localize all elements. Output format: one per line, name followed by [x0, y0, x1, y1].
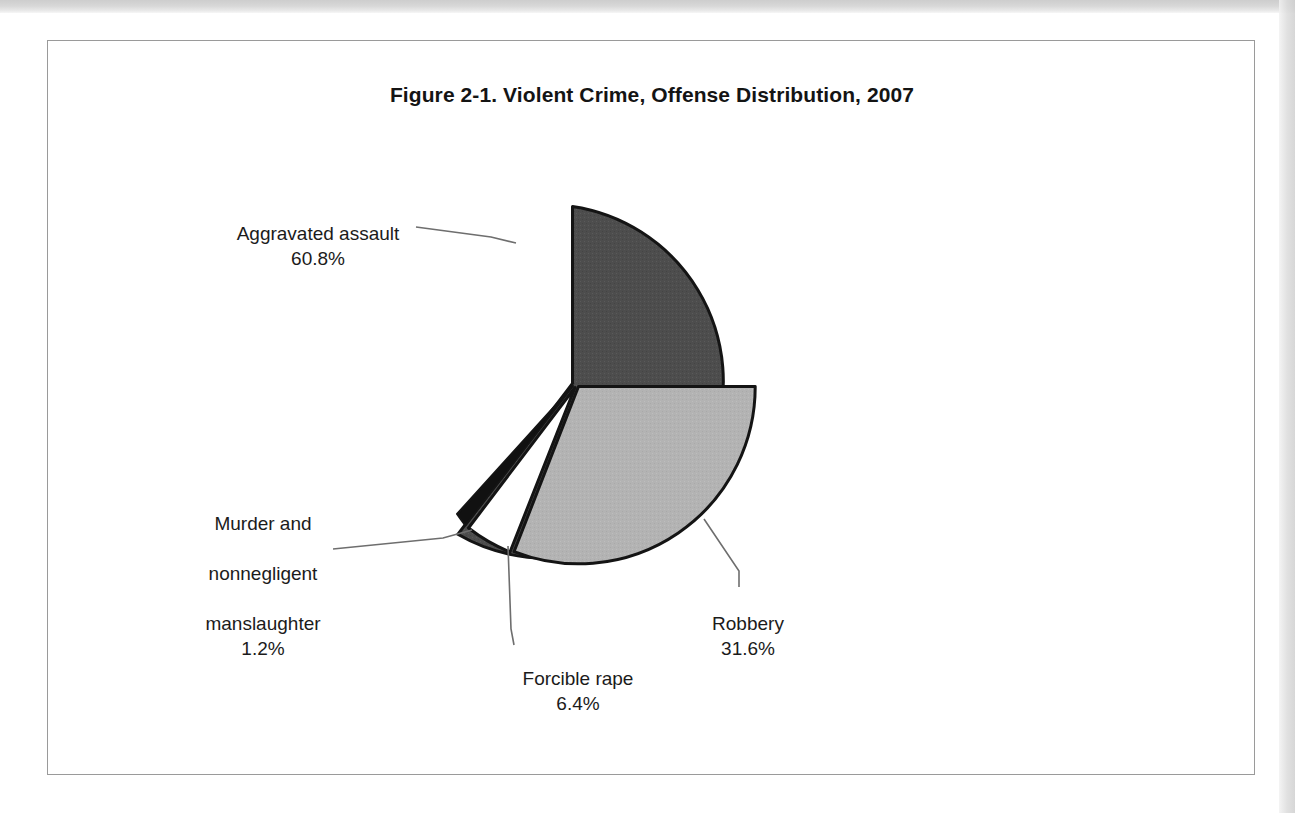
pie-label-robbery-value: 31.6% — [648, 636, 848, 661]
scan-artifact-top-band — [0, 0, 1295, 13]
pie-label-aggravated-assault-value: 60.8% — [203, 246, 433, 271]
pie-label-murder-line3: manslaughter — [205, 613, 320, 634]
pie-label-murder-line1: Murder and — [214, 513, 311, 534]
scan-artifact-right-band — [1279, 0, 1295, 813]
leader-line-robbery — [704, 519, 739, 587]
pie-label-robbery: Robbery 31.6% — [648, 586, 848, 686]
pie-label-aggravated-assault-text: Aggravated assault — [237, 223, 400, 244]
pie-label-murder-line2: nonnegligent — [209, 563, 318, 584]
pie-label-robbery-text: Robbery — [712, 613, 784, 634]
figure-frame: Figure 2-1. Violent Crime, Offense Distr… — [47, 40, 1255, 775]
pie-label-forcible-rape-text: Forcible rape — [523, 668, 634, 689]
leader-line-forcible-rape — [508, 546, 514, 645]
pie-label-aggravated-assault: Aggravated assault 60.8% — [203, 196, 433, 296]
pie-chart-plot-area: Aggravated assault 60.8% Murder and nonn… — [48, 41, 1256, 776]
figure-page: Figure 2-1. Violent Crime, Offense Distr… — [0, 0, 1295, 813]
pie-label-murder: Murder and nonnegligent manslaughter 1.2… — [168, 486, 358, 686]
pie-label-forcible-rape-value: 6.4% — [478, 691, 678, 716]
pie-label-murder-value: 1.2% — [168, 636, 358, 661]
